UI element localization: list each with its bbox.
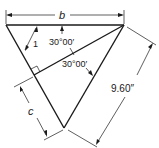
- arrow-down-icon: [44, 130, 47, 137]
- arrow-down-icon: [96, 139, 100, 145]
- angle-middle-label: 30°00′: [62, 59, 88, 69]
- angle-top-label: 30°00′: [49, 37, 75, 47]
- label-c: c: [28, 105, 34, 117]
- arrow-left-icon: [6, 13, 12, 17]
- dimension-c: c: [14, 77, 63, 140]
- arrow-down-icon: [25, 45, 29, 51]
- label-9-60: 9.60″: [111, 83, 134, 94]
- arrow-up-icon: [60, 26, 64, 31]
- arrow-up-icon: [148, 43, 153, 49]
- arrow-up-icon: [34, 26, 38, 32]
- label-b: b: [59, 9, 65, 21]
- dimension-b: b: [6, 9, 124, 24]
- arrow-right-icon: [118, 13, 124, 17]
- label-1: 1: [33, 39, 38, 49]
- side-marker-1: 1: [25, 26, 38, 51]
- triangle-diagram: b 1 30°00′ 30°00′ 9.60″ c: [0, 0, 159, 148]
